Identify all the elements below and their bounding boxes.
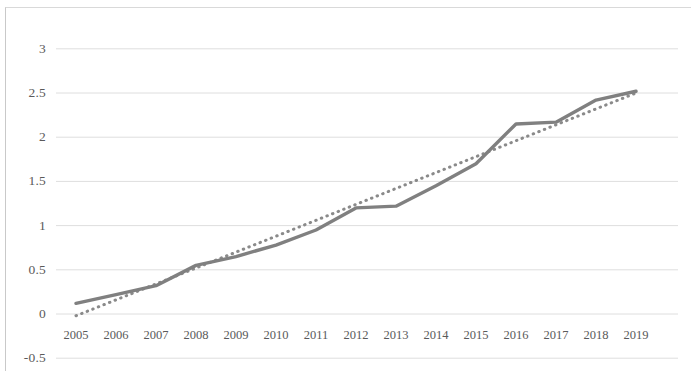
line-chart: 32.521.510.50-0.5 2005200620072008200920… <box>0 0 693 373</box>
y-tick-label: 2.5 <box>0 86 46 100</box>
chart-canvas <box>0 0 693 373</box>
x-tick-label: 2010 <box>256 329 296 342</box>
series-line-path <box>76 91 636 303</box>
x-tick-label: 2012 <box>336 329 376 342</box>
x-tick-label: 2015 <box>456 329 496 342</box>
series-line-group <box>76 91 636 303</box>
y-tick-label: -0.5 <box>0 351 46 365</box>
x-tick-label: 2018 <box>576 329 616 342</box>
x-tick-label: 2009 <box>216 329 256 342</box>
x-tick-label: 2019 <box>616 329 656 342</box>
x-tick-label: 2017 <box>536 329 576 342</box>
x-tick-label: 2013 <box>376 329 416 342</box>
x-tick-label: 2014 <box>416 329 456 342</box>
x-tick-label: 2007 <box>136 329 176 342</box>
x-tick-label: 2005 <box>56 329 96 342</box>
y-tick-label: 1 <box>0 219 46 233</box>
gridlines <box>56 49 678 358</box>
x-tick-label: 2011 <box>296 329 336 342</box>
y-tick-label: 0 <box>0 307 46 321</box>
x-tick-label: 2016 <box>496 329 536 342</box>
plot-area <box>0 0 693 373</box>
y-tick-label: 0.5 <box>0 263 46 277</box>
x-tick-label: 2006 <box>96 329 136 342</box>
y-tick-label: 3 <box>0 42 46 56</box>
y-tick-label: 2 <box>0 130 46 144</box>
y-tick-label: 1.5 <box>0 174 46 188</box>
x-tick-label: 2008 <box>176 329 216 342</box>
